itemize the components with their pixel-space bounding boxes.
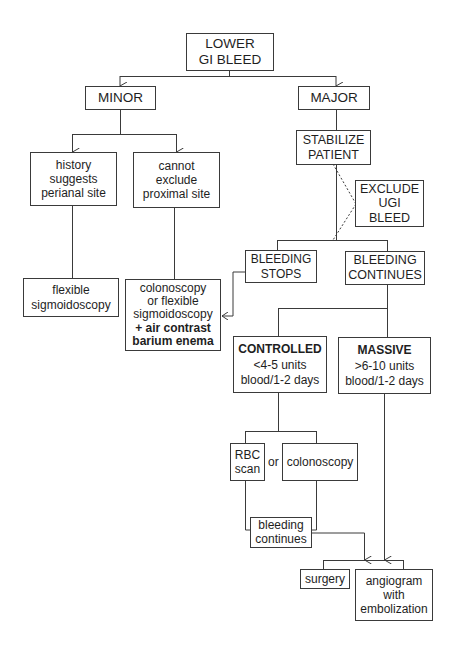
cannot-line-2: exclude [156, 173, 197, 187]
colo-combo-line-5: barium enema [132, 335, 213, 348]
bleeding-stops-box: BLEEDING STOPS [245, 250, 317, 283]
stabilize-line-2: PATIENT [308, 148, 359, 163]
exclude-line-1: EXCLUDE [360, 182, 419, 196]
controlled-box: CONTROLLED <4-5 units blood/1-2 days [233, 336, 327, 393]
massive-line-2: blood/1-2 days [345, 374, 424, 388]
bleeding-continues-box: BLEEDING CONTINUES [345, 251, 425, 285]
cannot-line-1: cannot [158, 159, 194, 173]
bleeding-continues-lower-box: bleeding continues [250, 517, 312, 548]
minor-box: MINOR [85, 86, 156, 110]
angiogram-embolization-box: angiogram with embolization [355, 569, 433, 621]
surgery-line-1: surgery [305, 572, 345, 586]
minor-label: MINOR [98, 90, 143, 106]
history-line-1: history [56, 158, 91, 172]
stops-line-2: STOPS [261, 267, 301, 281]
history-line-3: perianal site [41, 186, 106, 200]
continues-line-1: BLEEDING [353, 253, 416, 268]
or-label: or [268, 455, 279, 469]
colonoscopy-line-1: colonoscopy [287, 455, 354, 469]
massive-box: MASSIVE >6-10 units blood/1-2 days [338, 337, 431, 394]
rbc-scan-box: RBC scan [230, 443, 265, 481]
rbc-line-1: RBC [235, 448, 260, 462]
flexsig-line-2: sigmoidoscopy [31, 298, 110, 312]
massive-line-1: >6-10 units [355, 359, 415, 373]
bleeding-continues-2-line-1: bleeding [258, 519, 303, 532]
surgery-box: surgery [300, 569, 350, 589]
rbc-line-2: scan [235, 462, 260, 476]
colonoscopy-box: colonoscopy [282, 443, 358, 481]
cannot-exclude-proximal-box: cannot exclude proximal site [133, 152, 220, 208]
flexsig-line-1: flexible [52, 283, 89, 297]
stops-line-1: BLEEDING [251, 252, 312, 266]
angiogram-line-1: angiogram [366, 574, 423, 588]
colonoscopy-barium-enema-box: colonoscopy or flexible sigmoidoscopy + … [125, 279, 221, 351]
cannot-line-3: proximal site [143, 187, 210, 201]
massive-title: MASSIVE [357, 343, 411, 357]
connector-lines [0, 0, 456, 646]
root-line-2: GI BLEED [199, 52, 261, 68]
history-perianal-box: history suggests perianal site [30, 152, 117, 206]
controlled-line-2: blood/1-2 days [241, 373, 320, 387]
controlled-title: CONTROLLED [238, 342, 321, 356]
colo-combo-line-4: + air contrast [135, 322, 211, 335]
bleeding-continues-2-line-2: continues [255, 533, 306, 546]
controlled-line-1: <4-5 units [253, 358, 306, 372]
root-line-1: LOWER [205, 36, 255, 52]
stabilize-line-1: STABILIZE [303, 133, 365, 148]
history-line-2: suggests [49, 172, 97, 186]
flexible-sigmoidoscopy-box: flexible sigmoidoscopy [23, 278, 119, 317]
angiogram-line-3: embolization [360, 602, 427, 616]
colo-combo-line-3: sigmoidoscopy [133, 308, 212, 321]
lower-gi-bleed-box: LOWER GI BLEED [186, 33, 274, 71]
major-label: MAJOR [310, 90, 357, 106]
angiogram-line-2: with [383, 588, 404, 602]
continues-line-2: CONTINUES [348, 268, 422, 283]
exclude-line-3: BLEED [369, 211, 410, 225]
exclude-ugi-bleed-box: EXCLUDE UGI BLEED [355, 180, 424, 227]
exclude-line-2: UGI [378, 196, 400, 210]
stabilize-patient-box: STABILIZE PATIENT [296, 130, 371, 165]
major-box: MAJOR [298, 86, 370, 110]
